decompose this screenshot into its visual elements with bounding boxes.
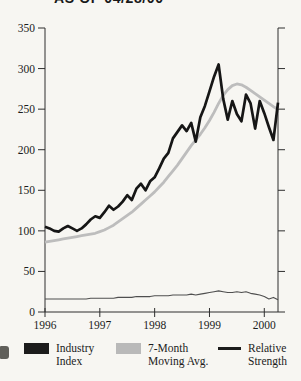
- legend-item-relative-strength: Relative Strength: [218, 342, 287, 367]
- moving-avg-swatch-icon: [116, 343, 141, 354]
- x-tick-label: 2000: [253, 319, 276, 331]
- legend-item-moving-avg: 7-Month Moving Avg.: [116, 342, 209, 367]
- y-tick-label: 0: [29, 306, 35, 318]
- legend-label-industry-index: Industry Index: [56, 342, 94, 367]
- y-tick-label: 50: [24, 265, 36, 277]
- legend-item-industry-index: Industry Index: [24, 342, 94, 367]
- y-tick-label: 300: [18, 63, 36, 75]
- y-tick-label: 100: [18, 225, 36, 237]
- x-tick-label: 1999: [198, 319, 221, 331]
- y-tick-label: 350: [18, 22, 36, 34]
- chart-page: AS OF 04/28/00 0501001502002503003501996…: [0, 0, 301, 381]
- legend-label-moving-avg: 7-Month Moving Avg.: [148, 342, 209, 367]
- y-tick-label: 150: [18, 184, 36, 196]
- relative-strength-line-swatch-icon: [218, 347, 241, 350]
- y-tick-label: 200: [18, 144, 36, 156]
- x-tick-label: 1996: [34, 319, 57, 331]
- scan-artifact-mark: [0, 346, 9, 359]
- legend-label-relative-strength: Relative Strength: [248, 342, 287, 367]
- industry-index-swatch-icon: [24, 343, 49, 354]
- y-tick-label: 250: [18, 103, 36, 115]
- x-tick-label: 1998: [143, 319, 166, 331]
- x-tick-label: 1997: [88, 319, 111, 331]
- industry-index-line: [45, 65, 278, 232]
- line-chart-canvas: 0501001502002503003501996199719981999200…: [0, 0, 301, 381]
- relative-strength-line: [45, 291, 278, 300]
